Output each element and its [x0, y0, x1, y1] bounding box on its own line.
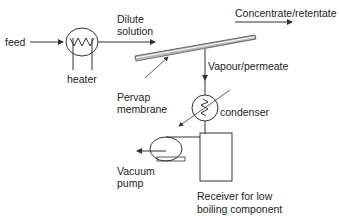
condenser-label: condenser [220, 106, 269, 118]
membrane-pointer [145, 57, 168, 78]
receiver-label-2: boiling component [197, 203, 282, 215]
vacuum-pump-label-2: pump [117, 177, 143, 189]
vacuum-pump-icon [137, 137, 200, 161]
receiver-label-1: Receiver for low [197, 190, 272, 202]
membrane [135, 35, 256, 61]
vapour-permeate-label: Vapour/permeate [208, 60, 288, 72]
membrane-label-1: Pervap [117, 91, 150, 103]
concentrate-label: Concentrate/retentate [235, 7, 337, 19]
dilute-solution-label-1: Dilute [117, 13, 144, 25]
receiver-vessel [200, 133, 232, 181]
membrane-label-2: membrane [117, 103, 167, 115]
pervaporation-diagram [0, 0, 339, 216]
vacuum-pump-label-1: Vacuum [117, 165, 155, 177]
feed-label: feed [5, 36, 25, 48]
heater-icon [66, 28, 98, 70]
heater-label: heater [67, 73, 97, 85]
dilute-solution-label-2: solution [117, 25, 153, 37]
